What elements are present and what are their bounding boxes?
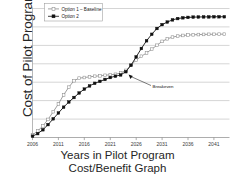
data-point-marker <box>176 35 179 38</box>
data-point-marker <box>78 92 81 95</box>
data-point-marker <box>62 94 65 97</box>
data-point-marker <box>67 86 70 89</box>
data-point-marker <box>124 70 127 73</box>
annotation-arrowhead <box>129 74 133 78</box>
data-point-marker <box>166 21 169 24</box>
x-axis-title: Years in Pilot Program <box>0 149 235 162</box>
data-point-marker <box>67 101 70 104</box>
annotation-leader-line <box>130 76 151 85</box>
data-point-marker <box>145 52 148 55</box>
data-point-marker <box>176 17 179 20</box>
data-point-marker <box>145 39 148 42</box>
x-tick-label: 2041 <box>208 141 219 147</box>
data-point-marker <box>119 74 122 77</box>
data-point-marker <box>57 112 60 115</box>
data-point-marker <box>156 27 159 30</box>
chart-title-block: Years in Pilot Program Cost/Benefit Grap… <box>0 149 235 175</box>
data-point-marker <box>161 40 164 43</box>
data-point-marker <box>213 15 216 18</box>
data-point-marker <box>73 79 76 82</box>
x-tick-label: 2016 <box>79 141 90 147</box>
data-point-marker <box>171 19 174 22</box>
data-point-marker <box>88 76 91 79</box>
data-point-marker <box>88 85 91 88</box>
data-point-marker <box>52 117 55 120</box>
cost-benefit-chart-figure: Cost of Pilot Program Cumulative Costs 2… <box>0 0 235 179</box>
data-point-marker <box>109 73 112 76</box>
data-point-marker <box>166 37 169 40</box>
x-tick-label: 2026 <box>131 141 142 147</box>
data-point-marker <box>197 16 200 19</box>
data-point-marker <box>218 33 221 36</box>
series-line <box>33 34 225 135</box>
data-point-marker <box>202 33 205 36</box>
data-point-marker <box>135 56 138 59</box>
data-point-marker <box>31 135 34 138</box>
legend-label: Option 1 – Baseline <box>61 7 102 12</box>
data-point-marker <box>130 64 133 67</box>
chart-legend[interactable]: Option 1 – BaselineOption 2 <box>45 4 103 22</box>
data-point-marker <box>181 16 184 19</box>
data-point-marker <box>99 74 102 77</box>
data-point-marker <box>104 74 107 77</box>
x-tick-label: 2006 <box>27 141 38 147</box>
x-tick-label: 2036 <box>182 141 193 147</box>
data-point-marker <box>83 76 86 79</box>
data-point-marker <box>57 103 60 106</box>
data-point-marker <box>99 80 102 83</box>
data-point-marker <box>171 36 174 39</box>
data-point-marker <box>52 110 55 113</box>
data-point-marker <box>161 23 164 26</box>
data-point-marker <box>140 55 143 58</box>
legend-marker-swatch <box>52 15 55 18</box>
data-point-marker <box>36 130 39 133</box>
data-point-marker <box>36 132 39 135</box>
series-1 <box>31 33 226 136</box>
data-point-marker <box>192 16 195 19</box>
data-point-marker <box>93 75 96 78</box>
legend-marker-swatch <box>52 7 55 10</box>
data-point-marker <box>109 76 112 79</box>
x-axis-ticks: 20062011201620212026203120362041 <box>27 138 220 148</box>
data-point-marker <box>207 33 210 36</box>
data-point-marker <box>150 48 153 51</box>
data-point-marker <box>223 15 226 18</box>
data-point-marker <box>104 78 107 81</box>
x-tick-label: 2011 <box>53 141 64 147</box>
data-point-marker <box>207 16 210 19</box>
breakeven-annotation: Breakeven <box>129 74 174 89</box>
data-point-marker <box>47 123 50 126</box>
annotation-label: Breakeven <box>153 84 175 89</box>
data-point-marker <box>181 34 184 37</box>
data-point-marker <box>223 33 226 36</box>
data-point-marker <box>213 33 216 36</box>
data-point-marker <box>197 33 200 36</box>
data-point-marker <box>114 75 117 78</box>
x-tick-label: 2031 <box>157 141 168 147</box>
data-point-marker <box>202 16 205 19</box>
data-point-marker <box>187 16 190 19</box>
chart-title: Cost/Benefit Graph <box>0 162 235 175</box>
data-point-marker <box>42 128 45 131</box>
data-point-marker <box>140 47 143 50</box>
data-point-marker <box>192 33 195 36</box>
data-point-marker <box>93 82 96 85</box>
data-point-marker <box>150 33 153 36</box>
data-point-marker <box>47 118 50 121</box>
data-point-marker <box>42 125 45 128</box>
data-point-marker <box>62 106 65 109</box>
x-tick-label: 2021 <box>105 141 116 147</box>
data-point-marker <box>187 34 190 37</box>
data-point-marker <box>78 77 81 80</box>
data-point-marker <box>156 44 159 47</box>
legend-label: Option 2 <box>61 14 79 19</box>
data-point-marker <box>73 96 76 99</box>
data-point-marker <box>218 15 221 18</box>
data-point-marker <box>83 88 86 91</box>
